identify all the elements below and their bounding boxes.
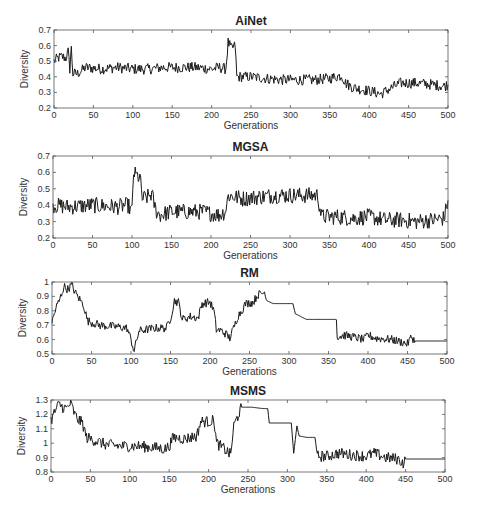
y-tick-label: 0.7: [38, 25, 51, 35]
x-tick-label: 500: [439, 356, 454, 366]
y-tick-label: 1.2: [35, 409, 48, 419]
x-tick-label: 100: [122, 474, 137, 484]
y-tick-label: 0.9: [35, 453, 48, 463]
y-tick-label: 0.2: [38, 103, 51, 113]
x-tick-label: 450: [398, 474, 413, 484]
x-tick-label: 150: [163, 356, 178, 366]
x-tick-label: 250: [243, 240, 258, 250]
subplot-rm: RM0501001502002503003504004505000.50.60.…: [17, 266, 455, 377]
x-tick-label: 0: [49, 356, 54, 366]
chart-title: AiNet: [235, 14, 266, 28]
x-tick-label: 200: [203, 240, 218, 250]
x-tick-label: 500: [440, 110, 455, 120]
x-tick-label: 300: [283, 110, 298, 120]
y-tick-label: 0.6: [37, 167, 50, 177]
x-axis-label: Generations: [223, 250, 277, 261]
y-tick-label: 1: [43, 438, 48, 448]
y-tick-label: 0.4: [38, 72, 51, 82]
x-tick-label: 400: [360, 356, 375, 366]
diversity-line: [52, 282, 447, 352]
x-tick-label: 150: [164, 240, 179, 250]
x-tick-label: 50: [87, 240, 97, 250]
x-axis-label: Generations: [221, 484, 275, 495]
subplot-msms: MSMS0501001502002503003504004505000.80.9…: [16, 384, 453, 495]
y-tick-label: 0.3: [38, 87, 51, 97]
x-tick-label: 250: [243, 110, 258, 120]
x-tick-label: 100: [124, 240, 139, 250]
y-tick-label: 1: [44, 277, 49, 287]
x-tick-label: 450: [401, 110, 416, 120]
y-tick-label: 1.1: [35, 424, 48, 434]
x-tick-label: 250: [240, 474, 255, 484]
x-tick-label: 0: [48, 474, 53, 484]
x-tick-label: 50: [88, 110, 98, 120]
x-axis-label: Generations: [222, 366, 276, 377]
x-tick-label: 50: [85, 474, 95, 484]
x-tick-label: 100: [123, 356, 138, 366]
x-tick-label: 150: [165, 110, 180, 120]
x-tick-label: 100: [125, 110, 140, 120]
y-tick-label: 1.3: [35, 395, 48, 405]
chart-title: RM: [240, 266, 259, 280]
y-tick-label: 0.5: [37, 184, 50, 194]
y-tick-label: 0.7: [36, 320, 49, 330]
axes-box: [52, 282, 447, 354]
x-tick-label: 200: [202, 356, 217, 366]
y-axis-label: Diversity: [16, 417, 27, 455]
x-tick-label: 0: [51, 110, 56, 120]
x-tick-label: 250: [242, 356, 257, 366]
x-tick-label: 400: [359, 474, 374, 484]
figure: AiNet0501001502002503003504004505000.20.…: [0, 0, 477, 512]
y-tick-label: 0.9: [36, 291, 49, 301]
y-axis-label: Diversity: [19, 50, 30, 88]
subplot-ainet: AiNet0501001502002503003504004505000.20.…: [19, 14, 456, 131]
x-tick-label: 200: [201, 474, 216, 484]
x-tick-label: 350: [321, 356, 336, 366]
y-tick-label: 0.8: [35, 467, 48, 477]
y-tick-label: 0.4: [37, 200, 50, 210]
x-tick-label: 300: [281, 356, 296, 366]
x-tick-label: 200: [204, 110, 219, 120]
y-axis-label: Diversity: [18, 178, 29, 216]
diversity-line: [51, 400, 445, 468]
x-tick-label: 350: [319, 474, 334, 484]
x-tick-label: 400: [362, 110, 377, 120]
y-tick-label: 0.5: [38, 56, 51, 66]
x-tick-label: 0: [50, 240, 55, 250]
x-tick-label: 350: [322, 240, 337, 250]
x-tick-label: 350: [322, 110, 337, 120]
x-tick-label: 150: [162, 474, 177, 484]
chart-title: MSMS: [230, 384, 266, 398]
y-axis-label: Diversity: [17, 299, 28, 337]
diversity-line: [53, 167, 448, 229]
x-tick-label: 400: [361, 240, 376, 250]
x-tick-label: 50: [86, 356, 96, 366]
chart-title: MGSA: [233, 140, 269, 154]
y-tick-label: 0.7: [37, 151, 50, 161]
x-tick-label: 300: [282, 240, 297, 250]
y-tick-label: 0.3: [37, 217, 50, 227]
y-tick-label: 0.8: [36, 306, 49, 316]
y-tick-label: 0.2: [37, 233, 50, 243]
x-tick-label: 300: [280, 474, 295, 484]
x-tick-label: 500: [437, 474, 452, 484]
x-tick-label: 500: [440, 240, 455, 250]
x-axis-label: Generations: [224, 120, 278, 131]
y-tick-label: 0.6: [38, 41, 51, 51]
subplot-mgsa: MGSA0501001502002503003504004505000.20.3…: [18, 140, 456, 261]
y-tick-label: 0.5: [36, 349, 49, 359]
x-tick-label: 450: [400, 356, 415, 366]
x-tick-label: 450: [401, 240, 416, 250]
y-tick-label: 0.6: [36, 335, 49, 345]
diversity-line: [54, 38, 448, 98]
